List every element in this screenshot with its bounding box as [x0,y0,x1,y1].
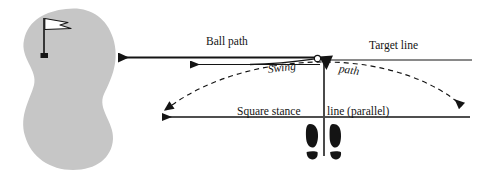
label-target-line: Target line [369,39,418,51]
footprint-left [306,124,318,159]
golf-ball-icon [314,55,320,61]
label-ball-path: Ball path [206,35,248,47]
clubhead-icon [319,56,333,71]
footprint-right [330,124,341,159]
label-square-stance: Square stance [237,105,301,117]
putting-green [23,8,115,170]
label-line-parallel: line (parallel) [327,105,389,117]
hole-marker-icon [41,53,49,58]
golf-alignment-diagram: Ball path Target line Swing path Square … [0,0,494,180]
swing-path-dashed-arc [172,62,462,106]
diagram-canvas [0,0,494,180]
